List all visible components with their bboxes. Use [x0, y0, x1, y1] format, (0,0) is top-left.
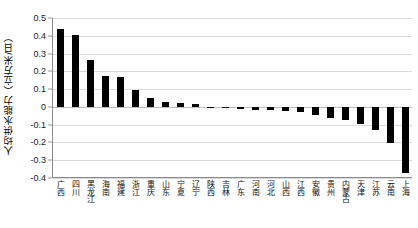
y-tick-label: 0.4: [33, 31, 46, 41]
y-tick-label: 0.1: [33, 84, 46, 94]
bar: [237, 107, 245, 109]
gridline: [53, 178, 412, 179]
y-axis-title-text: 人均供水能力（立方米/日）: [4, 32, 14, 155]
x-tick-label: 天津: [356, 180, 364, 195]
y-tick-label: 0.2: [33, 66, 46, 76]
bar: [117, 77, 125, 107]
y-tick-label: -0.1: [30, 120, 46, 130]
x-tick-label: 吉林: [221, 180, 229, 195]
x-tick-label: 河北: [266, 180, 274, 195]
x-tick-label: 海南: [101, 180, 109, 195]
bar: [267, 107, 275, 110]
bar: [147, 98, 155, 107]
y-tick-mark: [48, 178, 52, 179]
x-tick-label: 辽宁: [191, 180, 199, 195]
bar: [222, 107, 230, 109]
x-tick-label: 广东: [236, 180, 244, 195]
bar: [57, 29, 65, 107]
y-tick-label: -0.3: [30, 155, 46, 165]
y-tick-mark: [48, 35, 52, 36]
bar: [372, 107, 380, 130]
bar: [312, 107, 320, 116]
x-tick-label: 山西: [281, 180, 289, 195]
bar: [162, 102, 170, 107]
y-tick-mark: [48, 18, 52, 19]
y-tick-mark: [48, 124, 52, 125]
bar: [87, 60, 95, 107]
bar: [102, 76, 110, 107]
bar: [342, 107, 350, 120]
plot-area: [52, 18, 412, 178]
bar: [282, 107, 290, 111]
x-tick-label: 山东: [161, 180, 169, 195]
bar: [327, 107, 335, 118]
y-tick-label: -0.4: [30, 173, 46, 183]
x-tick-label: 内蒙古: [341, 180, 349, 203]
bar: [357, 107, 365, 124]
x-tick-label: 江西: [296, 180, 304, 195]
y-axis-tick-labels: 0.50.40.30.20.10-0.1-0.2-0.3-0.4: [18, 0, 50, 186]
x-tick-label: 广西: [56, 180, 64, 195]
bar: [402, 107, 410, 173]
x-tick-label: 黑龙江: [86, 180, 94, 203]
x-tick-label: 重庆: [146, 180, 154, 195]
x-tick-label: 浙江: [131, 180, 139, 195]
bar: [72, 35, 80, 107]
x-axis-tick-labels: 广西四川黑龙江海南福建浙江重庆山东宁夏辽宁陕西吉林广东河南河北山西江西安徽贵州内…: [52, 180, 412, 228]
y-tick-mark: [48, 106, 52, 107]
y-tick-mark: [48, 53, 52, 54]
x-tick-label: 宁夏: [176, 180, 184, 195]
x-tick-label: 四川: [71, 180, 79, 195]
x-tick-label: 河南: [251, 180, 259, 195]
bar: [387, 107, 395, 143]
y-tick-mark: [48, 142, 52, 143]
x-tick-label: 上海: [401, 180, 409, 195]
bar: [252, 107, 260, 110]
x-tick-label: 福建: [116, 180, 124, 195]
supply-capacity-bar-chart: 人均供水能力（立方米/日） 0.50.40.30.20.10-0.1-0.2-0…: [0, 0, 418, 228]
x-tick-label: 安徽: [311, 180, 319, 195]
x-tick-label: 云南: [386, 180, 394, 195]
y-tick-mark: [48, 89, 52, 90]
y-tick-label: 0.3: [33, 49, 46, 59]
x-tick-label: 贵州: [326, 180, 334, 195]
x-tick-label: 江苏: [371, 180, 379, 195]
bar: [132, 90, 140, 107]
bar: [297, 107, 305, 112]
y-tick-label: 0.5: [33, 13, 46, 23]
y-axis-title: 人均供水能力（立方米/日）: [0, 0, 18, 186]
x-tick-label: 陕西: [206, 180, 214, 195]
bars-layer: [53, 18, 412, 177]
y-tick-mark: [48, 160, 52, 161]
y-tick-label: -0.2: [30, 137, 46, 147]
bar: [192, 104, 200, 107]
y-tick-mark: [48, 71, 52, 72]
bar: [177, 103, 185, 107]
bar: [207, 107, 215, 109]
y-tick-label: 0: [41, 102, 46, 112]
